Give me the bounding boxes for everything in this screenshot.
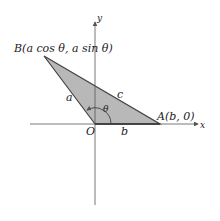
- point-b-label: B(a cos θ, a sin θ): [13, 42, 113, 55]
- triangle-oab: [44, 56, 160, 124]
- angle-theta-label: θ: [103, 104, 109, 114]
- side-a-label: a: [66, 91, 73, 104]
- diagram-canvas: y x B(a cos θ, a sin θ) A(b, 0) O a b c …: [0, 0, 220, 221]
- y-axis-label: y: [96, 13, 103, 23]
- point-a-label: A(b, 0): [156, 110, 195, 123]
- side-b-label: b: [121, 125, 128, 138]
- x-axis-label: x: [200, 120, 205, 130]
- origin-label: O: [86, 125, 95, 138]
- side-c-label: c: [117, 88, 123, 101]
